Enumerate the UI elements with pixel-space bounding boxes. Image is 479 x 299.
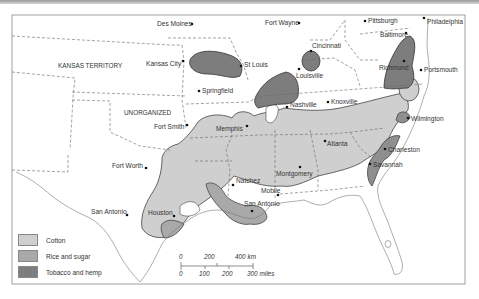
city-wilmington: Wilmington xyxy=(411,115,444,123)
rice-sugar-swatch xyxy=(18,250,38,262)
legend-item-cotton: Cotton xyxy=(18,232,102,248)
city-louisville: Louisville xyxy=(296,72,323,79)
cotton-swatch xyxy=(18,234,38,246)
city-memphis: Memphis xyxy=(216,125,243,133)
city-philadelphia: Philadelphia xyxy=(427,18,463,26)
city-san-antonio: San Antonio xyxy=(91,208,127,215)
region-label-kansas-territory: KANSAS TERRITORY xyxy=(58,62,123,69)
scale-km-200: 200 xyxy=(203,253,215,260)
city-cincinnati: Cincinnati xyxy=(312,42,341,49)
city-kansas-city: Kansas City xyxy=(146,60,182,68)
scale-mi-300: 300 miles xyxy=(247,270,275,277)
scale-km-0: 0 xyxy=(179,253,183,260)
tobacco-hemp-swatch xyxy=(18,266,38,278)
city-richmond: Richmond xyxy=(379,64,409,71)
city-montgomery: Montgomery xyxy=(276,170,313,178)
scale-mi-0: 0 xyxy=(179,270,183,277)
scale-km-400: 400 km xyxy=(235,253,257,260)
city-charleston: Charleston xyxy=(388,146,420,153)
tobacco-region-cincinnati xyxy=(302,51,320,71)
legend-item-tobacco-hemp: Tobacco and hemp xyxy=(18,264,102,280)
legend-label-cotton: Cotton xyxy=(46,237,65,244)
city-knoxville: Knoxville xyxy=(331,98,358,105)
city-portsmouth: Portsmouth xyxy=(424,66,458,73)
city-natchez: Natchez xyxy=(236,177,260,184)
scale-mi-100: 100 xyxy=(199,270,210,277)
city-mobile: Mobile xyxy=(261,187,281,194)
city-atlanta: Atlanta xyxy=(327,140,348,147)
legend-label-rice-sugar: Rice and sugar xyxy=(46,253,90,260)
city-springfield: Springfield xyxy=(202,87,233,95)
city-st-louis: St Louis xyxy=(244,61,269,68)
city-baltimore: Baltimore xyxy=(380,31,408,38)
legend-item-rice-sugar: Rice and sugar xyxy=(18,248,102,264)
city-savannah: Savannah xyxy=(373,161,403,168)
scale-mi-200: 200 xyxy=(221,270,233,277)
city-fort-worth: Fort Worth xyxy=(112,162,143,169)
legend-label-tobacco-hemp: Tobacco and hemp xyxy=(46,269,102,276)
city-new-orleans: San Antonio xyxy=(244,200,280,207)
city-pittsburgh: Pittsburgh xyxy=(368,17,398,25)
city-des-moines: Des Moines xyxy=(157,20,193,27)
legend: Cotton Rice and sugar Tobacco and hemp xyxy=(18,232,102,280)
city-nashville: Nashville xyxy=(290,101,317,108)
city-fort-smith: Fort Smith xyxy=(154,123,185,130)
city-houston: Houston xyxy=(148,209,173,216)
city-fort-wayne: Fort Wayne xyxy=(265,19,299,27)
region-label-unorganized: UNORGANIZED xyxy=(124,109,172,116)
